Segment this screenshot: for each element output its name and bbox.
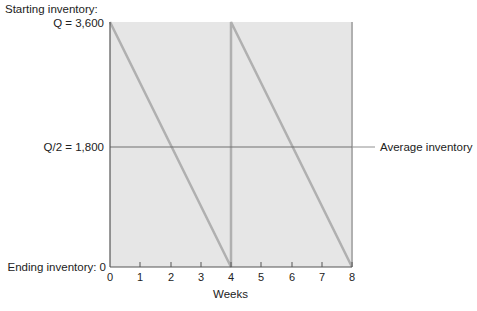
- x-tick-3: 3: [191, 271, 211, 283]
- x-tick-5: 5: [251, 271, 271, 283]
- average-inventory-label: Average inventory: [380, 141, 472, 154]
- x-tick-7: 7: [312, 271, 332, 283]
- y-label-q: Q = 3,600: [0, 17, 104, 30]
- y-label-starting: Starting inventory:: [5, 3, 98, 16]
- y-label-half-q: Q/2 = 1,800: [0, 141, 104, 154]
- x-tick-8: 8: [342, 271, 362, 283]
- x-tick-2: 2: [161, 271, 181, 283]
- x-tick-1: 1: [130, 271, 150, 283]
- x-tick-4: 4: [221, 271, 241, 283]
- y-label-ending: Ending inventory: 0: [0, 261, 106, 274]
- x-tick-6: 6: [282, 271, 302, 283]
- x-tick-0: 0: [100, 271, 120, 283]
- x-axis-label: Weeks: [213, 288, 248, 301]
